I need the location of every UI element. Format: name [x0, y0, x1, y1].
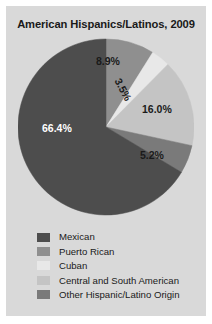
- legend-item-label: Puerto Rican: [59, 247, 114, 257]
- slice-value-label: 16.0%: [142, 103, 172, 115]
- legend-item: Central and South American: [37, 273, 207, 287]
- legend-item-label: Other Hispanic/Latino Origin: [59, 290, 180, 300]
- legend-swatch-icon: [37, 276, 50, 285]
- legend-swatch-icon: [37, 247, 50, 256]
- legend-item: Puerto Rican: [37, 244, 207, 258]
- chart-title: American Hispanics/Latinos, 2009: [6, 18, 206, 30]
- legend-swatch-icon: [37, 290, 50, 299]
- legend-item: Cuban: [37, 259, 207, 273]
- legend-item: Mexican: [37, 230, 207, 244]
- chart-figure: American Hispanics/Latinos, 2009 8.9% 3.…: [6, 6, 206, 316]
- legend-swatch-icon: [37, 261, 50, 270]
- slice-value-label: 5.2%: [140, 149, 164, 161]
- legend-swatch-icon: [37, 233, 50, 242]
- legend-item: Other Hispanic/Latino Origin: [37, 288, 207, 302]
- pie-chart: 8.9% 3.5% 16.0% 5.2% 66.4%: [6, 36, 206, 226]
- legend-item-label: Central and South American: [59, 276, 179, 286]
- slice-value-label: 66.4%: [42, 122, 72, 134]
- legend-item-label: Cuban: [59, 261, 87, 271]
- chart-legend: Mexican Puerto Rican Cuban Central and S…: [37, 230, 207, 302]
- legend-item-label: Mexican: [59, 232, 95, 242]
- slice-value-label: 8.9%: [96, 55, 120, 67]
